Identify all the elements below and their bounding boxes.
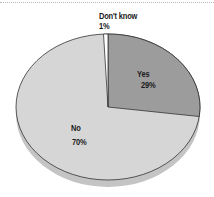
label-no: No — [71, 124, 81, 133]
label-dont-know: Don't know — [99, 12, 137, 21]
value-yes: 29% — [141, 81, 155, 90]
slice-yes — [108, 34, 200, 117]
value-no: 70% — [72, 138, 86, 147]
value-dont-know: 1% — [99, 22, 109, 31]
label-yes: Yes — [137, 70, 149, 79]
